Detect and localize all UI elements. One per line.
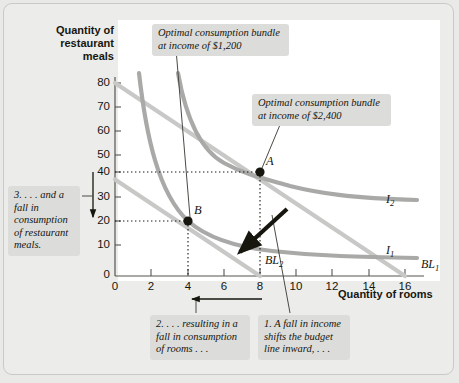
figure-container: Quantity of restaurant meals Quantity of… (0, 0, 459, 383)
x-axis-title: Quantity of rooms (338, 288, 444, 301)
y-tick-label-50: 50 (88, 148, 110, 160)
x-tick-label-4: 4 (178, 280, 198, 292)
callout-step-2: 2. . . . resulting in a fall in consumpt… (150, 315, 250, 360)
y-tick-label-30: 30 (88, 190, 110, 202)
budget-shift-arrow (240, 209, 287, 252)
curve-label-BL1-sub: 1 (435, 263, 439, 273)
callout-step-3: 3. . . . and a fall in consumption of re… (8, 186, 80, 256)
callout-step-1: 1. A fall in income shifts the budget li… (258, 315, 350, 360)
curve-label-I1-sub: 1 (390, 249, 394, 259)
point-label-B: B (194, 203, 202, 218)
y-axis-title: Quantity of restaurant meals (48, 24, 114, 63)
curve-label-I2-sub: 2 (390, 198, 394, 208)
x-tick-label-10: 10 (286, 280, 306, 292)
x-tick-label-6: 6 (214, 280, 234, 292)
x-tick-label-8: 8 (250, 280, 270, 292)
curve-label-I1: I1 (386, 243, 394, 259)
curve-label-BL1-text: BL (421, 257, 435, 271)
curve-label-I2: I2 (386, 192, 394, 208)
curve-label-BL1: BL1 (421, 257, 439, 273)
curve-label-BL2-sub: 2 (279, 259, 283, 269)
x-tick-label-16: 16 (395, 280, 415, 292)
x-tick-label-0: 0 (105, 280, 125, 292)
y-tick-label-10: 10 (88, 238, 110, 250)
x-tick-label-14: 14 (359, 280, 379, 292)
x-tick-label-2: 2 (141, 280, 161, 292)
callout-optimal-bundle-2400: Optimal consumption bundle at income of … (252, 94, 391, 126)
point-label-A: A (266, 154, 274, 169)
y-tick-label-80: 80 (88, 76, 110, 88)
point-B (183, 216, 192, 225)
y-tick-label-60: 60 (88, 124, 110, 136)
y-tick-label-0: 0 (88, 268, 110, 280)
callout-optimal-bundle-1200: Optimal consumption bundle at income of … (152, 24, 289, 56)
point-A (255, 167, 264, 176)
x-axis-ticks (151, 269, 405, 276)
indifference-curve-I2 (178, 73, 417, 200)
y-tick-label-70: 70 (88, 100, 110, 112)
y-tick-label-20: 20 (88, 214, 110, 226)
curve-label-BL2: BL2 (265, 253, 283, 269)
x-tick-label-12: 12 (322, 280, 342, 292)
y-tick-label-40: 40 (88, 165, 110, 177)
curve-label-BL2-text: BL (265, 253, 279, 267)
